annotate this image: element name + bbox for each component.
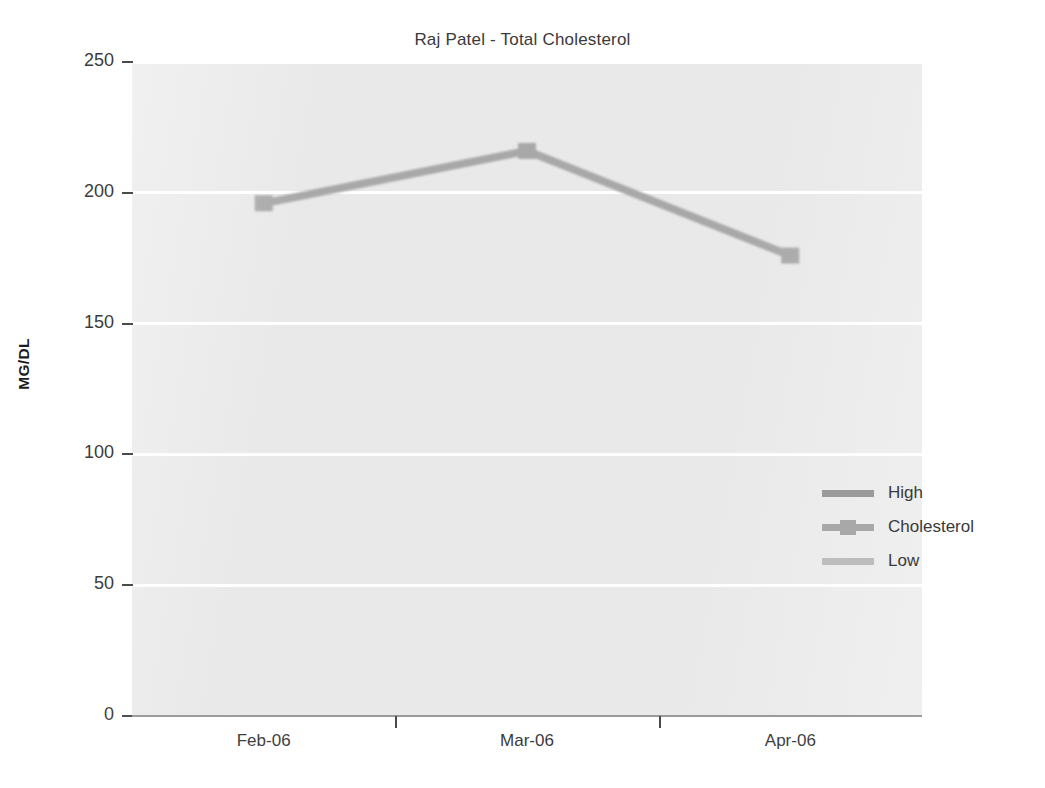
y-axis-tick [122, 61, 133, 63]
data-point-marker [255, 195, 273, 211]
x-axis-tick-label: Mar-06 [447, 731, 607, 751]
legend-label: High [888, 483, 923, 503]
data-point-marker [518, 143, 536, 159]
y-axis-tick-label: 150 [36, 312, 114, 333]
chart-legend: HighCholesterolLow [822, 476, 1002, 578]
y-axis-tick-label: 0 [36, 704, 114, 725]
legend-item[interactable]: Cholesterol [822, 510, 1002, 544]
legend-item[interactable]: Low [822, 544, 1002, 578]
y-axis-tick [122, 453, 133, 455]
y-axis-title: MG/DL [15, 324, 33, 404]
y-axis-tick [122, 323, 133, 325]
y-axis-tick [122, 584, 133, 586]
y-axis-tick-label: 100 [36, 442, 114, 463]
plot-area: HighCholesterolLow [132, 62, 922, 716]
x-axis-tick [395, 716, 397, 728]
chart-title: Raj Patel - Total Cholesterol [0, 30, 1045, 50]
series-layer [132, 62, 922, 716]
x-axis-tick-label: Apr-06 [710, 731, 870, 751]
chart-canvas: Raj Patel - Total Cholesterol MG/DL High… [0, 0, 1045, 788]
legend-swatch-cholesterol [822, 524, 874, 531]
legend-item[interactable]: High [822, 476, 1002, 510]
y-axis-tick-label: 250 [36, 50, 114, 71]
x-axis-tick-label: Feb-06 [184, 731, 344, 751]
series-cholesterol [255, 143, 800, 264]
x-axis-line [132, 715, 922, 717]
data-point-marker [781, 248, 799, 264]
y-axis-tick-label: 50 [36, 573, 114, 594]
legend-swatch-high [822, 490, 874, 497]
y-axis-tick-label: 200 [36, 181, 114, 202]
x-axis-tick [659, 716, 661, 728]
y-axis-tick [122, 192, 133, 194]
legend-swatch-low [822, 558, 874, 565]
series-line [264, 151, 791, 256]
legend-label: Low [888, 551, 919, 571]
legend-label: Cholesterol [888, 517, 974, 537]
